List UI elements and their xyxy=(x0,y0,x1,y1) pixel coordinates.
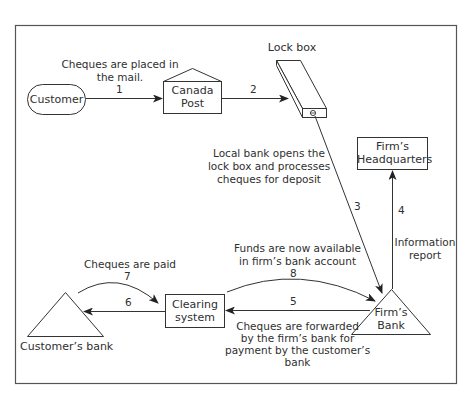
clearing-system-label-line2: system xyxy=(165,311,225,324)
clearing-system-label-line1: Clearing xyxy=(165,298,225,311)
edge-8-arrow xyxy=(227,279,375,301)
edge-4-step: 4 xyxy=(398,204,405,216)
edge-7-arrow xyxy=(78,283,158,303)
edge-5-label-line4: bank xyxy=(225,356,370,369)
firms-hq-label-line1: Firm’s xyxy=(357,140,428,153)
edge-3-label-line3: cheques for deposit xyxy=(204,173,334,186)
edge-5-step: 5 xyxy=(290,295,297,307)
firms-bank-label-line1: Firm’s xyxy=(361,306,421,319)
edge-1-label-line1: Cheques are placed in xyxy=(60,58,180,71)
edge-2-step: 2 xyxy=(250,83,257,95)
edge-4-label-line1: Information xyxy=(394,236,456,249)
canada-post-label-line2: Post xyxy=(163,97,222,110)
edge-1-label-line2: the mail. xyxy=(60,71,180,84)
lock-box-node xyxy=(277,61,327,118)
edge-1-step: 1 xyxy=(116,83,123,95)
edge-8-label-line2: in firm’s bank account xyxy=(230,255,365,268)
edge-3-step: 3 xyxy=(354,200,361,212)
edge-8-label-line1: Funds are now available xyxy=(230,242,365,255)
firms-hq-label-line2: Headquarters xyxy=(357,153,428,166)
canada-post-label-line1: Canada xyxy=(163,84,222,97)
edge-3-label-line2: lock box and processes xyxy=(204,160,334,173)
lock-box-label: Lock box xyxy=(262,41,322,54)
edge-5-label-line3: payment by the customer’s xyxy=(225,344,370,357)
firms-bank-label-line2: Bank xyxy=(361,319,421,332)
customer-label: Customer xyxy=(27,93,86,106)
edge-8-step: 8 xyxy=(290,267,297,279)
edge-3-label-line1: Local bank opens the xyxy=(204,147,334,160)
edge-6-step: 6 xyxy=(125,296,132,308)
edge-7-label-line1: Cheques are paid xyxy=(80,258,180,271)
edge-5-label-line1: Cheques are forwarded xyxy=(225,320,370,333)
edge-7-step: 7 xyxy=(124,270,131,282)
customers-bank-node xyxy=(28,293,104,337)
edge-4-label-line2: report xyxy=(394,249,456,262)
edge-5-label-line2: by the firm’s bank for xyxy=(225,332,370,345)
customers-bank-label: Customer’s bank xyxy=(20,340,110,353)
